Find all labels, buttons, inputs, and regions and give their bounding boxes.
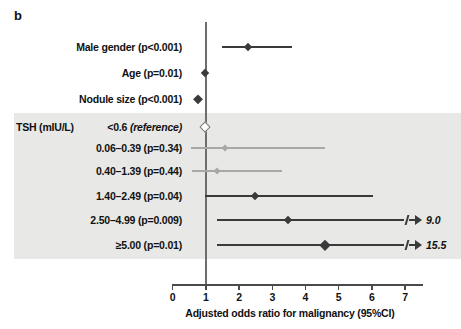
truncation-indicator: 9.0 — [406, 214, 440, 226]
odds-ratio-marker — [193, 94, 202, 103]
forest-plot-figure: b TSH (mIU/L)Male gender (p<0.001)Age (p… — [0, 0, 461, 329]
x-axis-title: Adjusted odds ratio for malignancy (95%C… — [185, 307, 394, 319]
arrow-right-icon — [409, 215, 422, 225]
confidence-interval-line — [217, 244, 405, 246]
arrow-head — [415, 215, 422, 225]
x-axis-tick — [172, 286, 173, 290]
truncation-indicator: 15.5 — [406, 239, 446, 251]
x-axis-tick-label: 6 — [369, 291, 375, 303]
x-axis-tick — [404, 286, 405, 290]
x-axis-tick — [371, 286, 372, 290]
confidence-interval-line — [205, 195, 373, 197]
odds-ratio-marker — [213, 167, 220, 174]
arrow-right-icon — [409, 240, 422, 250]
x-axis-tick-label: 1 — [203, 291, 209, 303]
x-axis-tick-label: 3 — [269, 291, 275, 303]
odds-ratio-marker — [200, 69, 208, 77]
x-axis-tick-label: 5 — [336, 291, 342, 303]
x-axis-tick — [305, 286, 306, 290]
odds-ratio-marker — [222, 144, 229, 151]
x-axis-tick-label: 0 — [170, 291, 176, 303]
upper-ci-value: 15.5 — [426, 239, 446, 251]
x-axis-tick — [238, 286, 239, 290]
x-axis-line — [172, 284, 423, 286]
x-axis-tick — [205, 286, 206, 290]
odds-ratio-marker — [284, 216, 292, 224]
x-axis-tick — [338, 286, 339, 290]
confidence-interval-line — [217, 219, 405, 221]
arrow-head — [415, 240, 422, 250]
x-axis-tick-label: 2 — [236, 291, 242, 303]
upper-ci-value: 9.0 — [426, 214, 441, 226]
confidence-interval-line — [222, 46, 292, 48]
odds-ratio-marker — [251, 192, 259, 200]
x-axis-tick-label: 7 — [402, 291, 408, 303]
confidence-interval-line — [191, 147, 325, 149]
odds-ratio-marker — [319, 240, 330, 251]
confidence-interval-line — [192, 170, 282, 172]
x-axis-tick — [272, 286, 273, 290]
plot-area: 9.015.501234567Adjusted odds ratio for m… — [0, 0, 461, 329]
reference-line — [205, 22, 206, 284]
x-axis-tick-label: 4 — [303, 291, 309, 303]
odds-ratio-marker — [244, 43, 252, 51]
reference-marker — [200, 121, 211, 132]
